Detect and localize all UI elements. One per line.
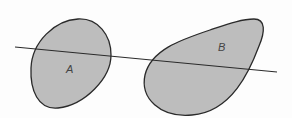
region-b-label: B xyxy=(218,41,225,53)
region-a-label: A xyxy=(66,63,73,75)
diagram-svg xyxy=(0,0,292,118)
region-b-shape xyxy=(144,19,263,115)
diagram-canvas: A B xyxy=(0,0,292,118)
